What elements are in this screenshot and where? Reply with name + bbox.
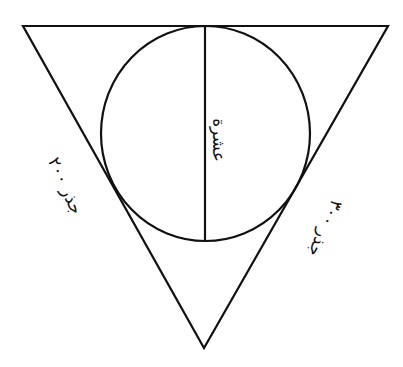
right-side-label: جذر ٣٠٠ [304,197,347,260]
diameter-label: عشرة [209,118,229,162]
diagram-canvas: عشرة جذر ٢٠٠ جذر ٣٠٠ [0,0,403,367]
left-side-label: جذر ٢٠٠ [44,154,87,217]
inscribed-circle-diagram: عشرة جذر ٢٠٠ جذر ٣٠٠ [0,0,403,367]
